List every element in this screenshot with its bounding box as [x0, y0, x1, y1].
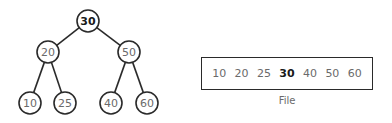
tree-node: 25: [54, 92, 76, 114]
tree-edge: [97, 28, 120, 46]
file-item: 40: [303, 67, 317, 80]
tree-node-label: 25: [58, 97, 72, 110]
file-item: 25: [257, 67, 271, 80]
binary-search-tree: 30205010254060: [0, 0, 200, 123]
file-label: File: [201, 95, 373, 106]
file-item-highlighted: 30: [279, 67, 294, 80]
tree-node: 30: [77, 10, 99, 32]
tree-edge: [133, 62, 144, 92]
tree-edge: [57, 28, 80, 46]
file-item: 60: [348, 67, 362, 80]
tree-node: 20: [37, 41, 59, 63]
tree-edge: [51, 62, 61, 92]
file-item: 10: [212, 67, 226, 80]
tree-node-label: 20: [41, 46, 55, 59]
tree-node: 10: [19, 92, 41, 114]
tree-node-label: 60: [140, 97, 154, 110]
tree-edge: [115, 62, 126, 92]
tree-node-label: 30: [80, 15, 96, 28]
file-item: 20: [235, 67, 249, 80]
file-box: 10 20 25 30 40 50 60: [201, 57, 373, 90]
tree-node: 40: [100, 92, 122, 114]
tree-node: 50: [118, 41, 140, 63]
tree-node-label: 50: [122, 46, 136, 59]
tree-edge: [34, 62, 45, 92]
tree-node: 60: [136, 92, 158, 114]
file-item: 50: [325, 67, 339, 80]
tree-node-label: 10: [23, 97, 37, 110]
tree-node-label: 40: [104, 97, 118, 110]
